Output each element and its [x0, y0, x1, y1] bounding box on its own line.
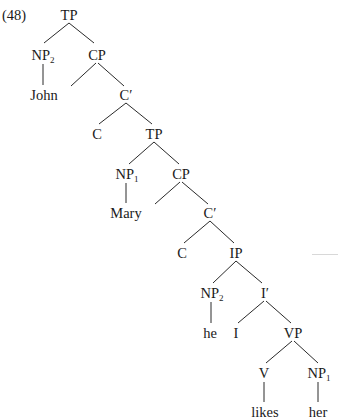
tree-node-c1: C [92, 127, 102, 142]
tree-edge-ibar-i [238, 301, 264, 323]
tree-node-label: I [234, 325, 239, 341]
tree-node-label: IP [230, 245, 243, 261]
tree-node-label: C′ [120, 87, 133, 103]
tree-node-ibar: I′ [261, 286, 269, 301]
tree-edge-vp-v [266, 341, 292, 363]
tree-edge-ip-ibar [236, 261, 262, 283]
tree-node-label: NP [200, 285, 219, 301]
tree-edge-cp1-cbar1 [98, 63, 124, 86]
tree-node-np1b: NP1 [307, 366, 330, 381]
tree-edge-ip-np2b [213, 261, 236, 283]
tree-node-cp1: CP [88, 48, 106, 63]
tree-node-john: John [30, 88, 57, 103]
tree-node-label: CP [88, 47, 106, 63]
tree-node-index: 2 [219, 293, 224, 303]
tree-edge-cp2-spec-cp2-empty [155, 182, 180, 204]
tree-node-label: C′ [204, 205, 217, 221]
tree-edge-cp1-spec-cp1-empty [71, 63, 96, 86]
tree-node-label: he [203, 325, 217, 341]
tree-node-cbar2: C′ [204, 206, 217, 221]
tree-node-label: VP [284, 325, 303, 341]
tree-edge-tp2-np1a [129, 142, 154, 164]
tree-node-label: TP [146, 126, 163, 142]
tree-node-cbar1: C′ [120, 88, 133, 103]
tree-node-label: I′ [261, 285, 269, 301]
scan-artifact-line [312, 254, 338, 255]
tree-edge-tp2-cp2 [154, 142, 179, 164]
tree-edge-cp2-cbar2 [182, 182, 208, 204]
tree-node-label: her [309, 404, 328, 419]
tree-node-cp2: CP [172, 167, 190, 182]
tree-node-index: 1 [326, 373, 331, 383]
tree-node-label: V [259, 365, 269, 381]
tree-node-label: John [30, 87, 57, 103]
tree-node-ip: IP [230, 246, 243, 261]
tree-edge-cbar1-tp2 [126, 103, 152, 124]
tree-node-label: NP [115, 166, 134, 182]
tree-edge-cbar2-ip [210, 221, 234, 243]
tree-node-label: CP [172, 166, 190, 182]
tree-node-he: he [203, 326, 217, 341]
tree-node-label: C [92, 126, 102, 142]
tree-node-np2b: NP2 [200, 286, 223, 301]
tree-node-her: her [309, 405, 328, 419]
tree-node-c2: C [177, 246, 187, 261]
tree-node-i: I [234, 326, 239, 341]
tree-node-likes: likes [251, 405, 278, 419]
tree-node-index: 2 [50, 55, 55, 65]
tree-node-index: 1 [134, 174, 139, 184]
tree-edge-vp-np1b [294, 341, 318, 363]
tree-node-mary: Mary [110, 206, 141, 221]
tree-node-label: NP [307, 365, 326, 381]
tree-node-np1a: NP1 [115, 167, 138, 182]
tree-edge-tp1-cp1 [69, 23, 94, 43]
tree-node-vp: VP [284, 326, 303, 341]
tree-node-label: C [177, 245, 187, 261]
tree-node-label: NP [31, 47, 50, 63]
tree-edge-cbar2-c2 [184, 221, 210, 243]
tree-node-label: TP [61, 7, 78, 23]
tree-edge-ibar-vp [266, 301, 291, 323]
tree-node-v: V [259, 366, 269, 381]
tree-edge-tp1-np2a [44, 23, 69, 43]
tree-node-tp2: TP [146, 127, 163, 142]
tree-node-np2a: NP2 [31, 48, 54, 63]
tree-node-label: Mary [110, 205, 141, 221]
tree-node-label: likes [251, 404, 278, 419]
tree-edge-cbar1-c1 [99, 103, 126, 124]
tree-node-tp1: TP [61, 8, 78, 23]
